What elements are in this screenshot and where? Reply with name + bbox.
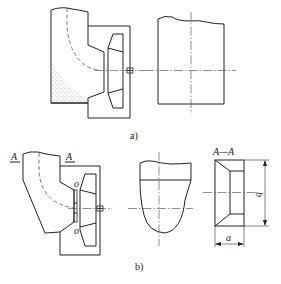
- flow-centerline: [67, 8, 100, 70]
- figure-b-front-view: [128, 152, 193, 246]
- sand-fill-region: [52, 62, 88, 103]
- figure-b: A A o o: [10, 146, 269, 273]
- point-label-o-bottom: o: [74, 225, 79, 236]
- figure-b-section-a-a: A—A b a: [203, 146, 269, 247]
- caption-a: a): [130, 130, 138, 142]
- point-label-o-top: o: [74, 178, 79, 189]
- impeller-blade: [80, 174, 96, 246]
- figure-b-side-view: A A o o: [10, 151, 112, 255]
- figure-a-front-view: [145, 12, 236, 114]
- section-title: A—A: [212, 146, 235, 157]
- impeller-blade: [108, 34, 123, 108]
- dimension-b-label: b: [254, 192, 265, 197]
- body-outline: [23, 152, 100, 255]
- dimension-a-label: a: [226, 232, 231, 243]
- caption-b: b): [135, 261, 143, 273]
- technical-drawing: a) A A o o: [0, 0, 281, 284]
- section-mark-left: A: [10, 151, 18, 162]
- figure-a: a): [51, 8, 236, 142]
- section-mark-right: A: [65, 151, 73, 162]
- figure-a-side-view: [51, 8, 145, 118]
